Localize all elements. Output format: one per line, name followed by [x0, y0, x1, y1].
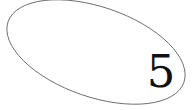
number-label-5: 5	[146, 48, 176, 96]
drawing-canvas: 5	[0, 0, 193, 110]
